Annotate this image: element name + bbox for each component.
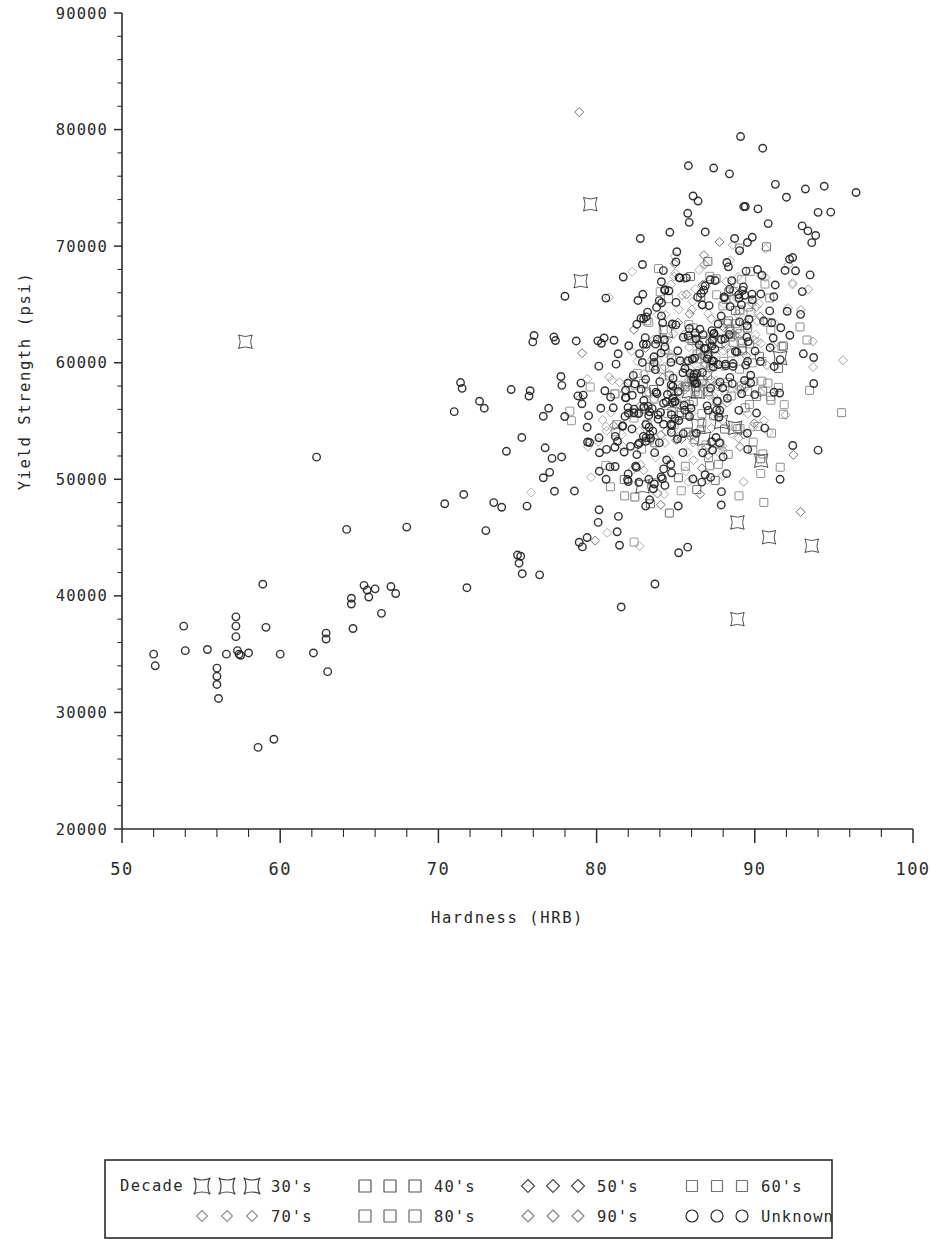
legend-label: 60's [761,1178,803,1196]
scatter-plot-figure: 2000030000400005000060000700008000090000… [0,0,931,1239]
x-tick-label: 50 [110,859,133,879]
x-tick-label: 80 [585,859,608,879]
legend-label: Unknown [761,1208,834,1226]
y-tick-label: 40000 [56,587,108,605]
x-tick-label: 90 [743,859,766,879]
y-tick-label: 30000 [56,704,108,722]
legend-label: 30's [271,1178,313,1196]
figure-background [0,0,931,1239]
y-tick-label: 90000 [56,5,108,23]
legend-label: 80's [434,1208,476,1226]
legend-label: 70's [271,1208,313,1226]
y-tick-label: 20000 [56,821,108,839]
legend-label: 50's [597,1178,639,1196]
legend-title: Decade [120,1177,184,1195]
x-tick-label: 70 [427,859,450,879]
legend-label: 40's [434,1178,476,1196]
chart-canvas: 2000030000400005000060000700008000090000… [0,0,931,1239]
y-tick-label: 80000 [56,121,108,139]
x-tick-label: 100 [896,859,931,879]
y-axis-title: Yield Strength (psi) [16,272,34,491]
x-tick-label: 60 [269,859,292,879]
y-tick-label: 70000 [56,238,108,256]
x-axis-title: Hardness (HRB) [431,909,584,927]
y-tick-label: 60000 [56,354,108,372]
legend-label: 90's [597,1208,639,1226]
y-tick-label: 50000 [56,471,108,489]
